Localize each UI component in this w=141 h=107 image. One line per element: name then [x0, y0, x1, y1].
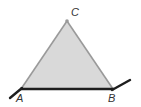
- extension-line-b: [112, 80, 130, 90]
- vertex-label-c: C: [71, 6, 79, 18]
- triangle-abc-fill: [21, 21, 113, 89]
- vertex-label-a: A: [15, 92, 23, 104]
- vertex-label-b: B: [108, 92, 115, 104]
- triangle-diagram: C A B: [0, 0, 141, 107]
- vertex-c-point: [65, 19, 69, 23]
